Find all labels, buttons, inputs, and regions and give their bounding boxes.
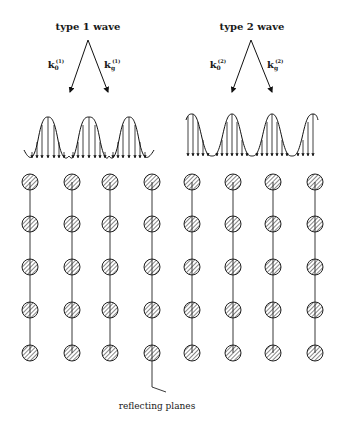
plane-pointer [152,387,166,392]
wave1-title: type 1 wave [56,21,121,32]
k0-label-2: k0(2) [210,58,226,71]
k0-label-1: k0(1) [48,58,64,71]
bloch-wave-diagram: type 1 wave k0(1) kg(1) type 2 wave k0(2… [0,0,340,423]
kg-label-1: kg(1) [104,58,120,72]
wave2-rays [188,114,313,156]
caption-reflecting-planes: reflecting planes [119,401,196,411]
k0-arrow-2 [232,40,251,92]
wave2-title: type 2 wave [220,21,285,32]
wave1-header: type 1 wave k0(1) kg(1) [48,21,121,92]
atom-lattice [22,174,323,361]
wave2-intensity [186,114,318,156]
wave2-header: type 2 wave k0(2) kg(2) [210,21,285,92]
kg-label-2: kg(2) [267,58,283,72]
wave1-rays [32,117,145,158]
wave1-intensity [24,117,154,158]
k0-arrow-1 [70,40,88,92]
